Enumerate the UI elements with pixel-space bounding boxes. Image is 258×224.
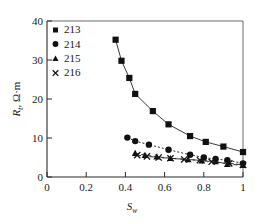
y-tick-label-40: 40: [32, 15, 44, 27]
triangle-marker-icon: [52, 55, 58, 61]
square-marker-icon: [240, 149, 246, 155]
y-axis-ticks: 0 10 20 30 40: [32, 15, 52, 183]
square-marker-icon: [126, 75, 132, 81]
x-tick-label-1: 1: [240, 181, 246, 193]
x-axis-title-sub: w: [132, 206, 137, 215]
y-tick-label-0: 0: [38, 171, 44, 183]
circle-marker-icon: [146, 141, 152, 147]
axis-titles: Sw Rt, Ω·m: [10, 81, 137, 214]
chart-figure: 0 10 20 30 40 0 0.2 0.4 0.6 0.8 1 Sw: [0, 0, 258, 224]
y-axis-title: Rt, Ω·m: [10, 81, 25, 117]
legend-label-216: 216: [64, 66, 81, 78]
cross-marker-icon: [53, 70, 59, 76]
x-tick-label-0-4: 0.4: [119, 181, 133, 193]
square-marker-icon: [53, 28, 58, 33]
x-axis-title: Sw: [127, 200, 138, 215]
square-marker-icon: [132, 91, 138, 97]
square-marker-icon: [113, 37, 119, 43]
legend-entry-215[interactable]: 215: [52, 52, 81, 64]
square-marker-icon: [165, 121, 171, 127]
series-213: [113, 37, 247, 156]
legend-entry-214[interactable]: 214: [53, 38, 81, 50]
y-axis-title-units: , Ω·m: [10, 81, 22, 107]
circle-marker-icon: [53, 41, 59, 47]
plot-canvas: 0 10 20 30 40 0 0.2 0.4 0.6 0.8 1 Sw: [0, 0, 258, 224]
square-marker-icon: [187, 133, 193, 139]
y-tick-label-10: 10: [32, 132, 44, 144]
x-tick-label-0-6: 0.6: [158, 181, 172, 193]
square-marker-icon: [150, 108, 156, 114]
x-tick-label-0-8: 0.8: [197, 181, 211, 193]
x-tick-label-0-2: 0.2: [79, 181, 93, 193]
series-layer: [113, 37, 247, 168]
legend-label-214: 214: [64, 38, 81, 50]
square-marker-icon: [203, 139, 209, 145]
x-tick-label-0: 0: [44, 181, 50, 193]
legend-label-213: 213: [64, 23, 81, 35]
circle-marker-icon: [132, 138, 138, 144]
legend-label-215: 215: [64, 52, 81, 64]
circle-marker-icon: [124, 134, 130, 140]
square-marker-icon: [118, 58, 124, 64]
x-axis-ticks: 0 0.2 0.4 0.6 0.8 1: [44, 172, 246, 193]
legend-entry-216[interactable]: 216: [53, 66, 81, 78]
legend-entry-213[interactable]: 213: [53, 23, 81, 35]
legend: 213 214 215 216: [52, 23, 81, 78]
y-tick-label-30: 30: [32, 54, 44, 66]
circle-marker-icon: [165, 147, 171, 153]
square-marker-icon: [220, 143, 226, 149]
y-tick-label-20: 20: [32, 93, 44, 105]
